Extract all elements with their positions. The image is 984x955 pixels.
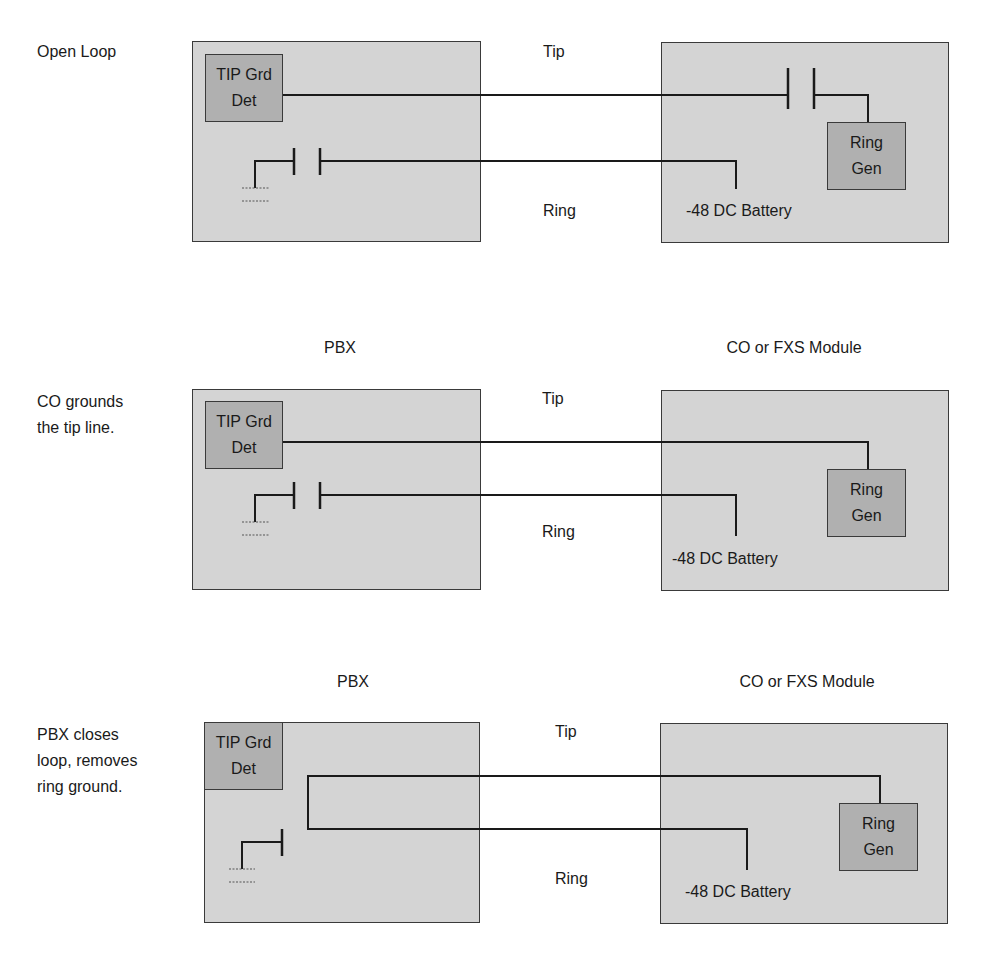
tip-detector-label-1: TIP Grd (216, 413, 272, 430)
tip-ground-detector: TIP GrdDet (205, 401, 283, 469)
tip-detector-label-1: TIP Grd (216, 734, 272, 751)
tip-detector-label-2: Det (231, 760, 256, 777)
ring-label: Ring (543, 201, 576, 220)
tip-label: Tip (543, 42, 565, 61)
pbx-label: PBX (303, 672, 403, 691)
ring-label: Ring (542, 522, 575, 541)
tip-label: Tip (555, 722, 577, 741)
battery-label: -48 DC Battery (685, 882, 791, 901)
caption-line: PBX closes (37, 726, 119, 743)
caption-line: loop, removes (37, 752, 138, 769)
panel-caption: PBX closes loop, removes ring ground. (37, 722, 138, 800)
caption-line: the tip line. (37, 419, 114, 436)
battery-label: -48 DC Battery (686, 201, 792, 220)
ring-gen-label-1: Ring (862, 815, 895, 832)
tip-ground-detector: TIP GrdDet (205, 54, 283, 122)
ring-generator: RingGen (827, 122, 906, 190)
tip-detector-label-1: TIP Grd (216, 66, 272, 83)
tip-detector-label-2: Det (232, 439, 257, 456)
tip-detector-label-2: Det (232, 92, 257, 109)
panel-caption: Open Loop (37, 42, 116, 61)
tip-ground-detector: TIP GrdDet (204, 722, 283, 790)
ring-gen-label-1: Ring (850, 134, 883, 151)
ring-gen-label-2: Gen (863, 841, 893, 858)
caption-line: ring ground. (37, 778, 122, 795)
ring-gen-label-2: Gen (851, 160, 881, 177)
ring-label: Ring (555, 869, 588, 888)
tip-label: Tip (542, 389, 564, 408)
battery-label: -48 DC Battery (672, 549, 778, 568)
ring-gen-label-2: Gen (851, 507, 881, 524)
ring-generator: RingGen (827, 469, 906, 537)
panel-caption: CO grounds the tip line. (37, 389, 123, 441)
co-label: CO or FXS Module (707, 672, 907, 691)
co-label: CO or FXS Module (694, 338, 894, 357)
ring-gen-label-1: Ring (850, 481, 883, 498)
ring-generator: RingGen (839, 803, 918, 871)
caption-line: CO grounds (37, 393, 123, 410)
pbx-label: PBX (290, 338, 390, 357)
